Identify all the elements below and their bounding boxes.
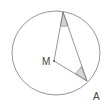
radius-mp bbox=[54, 12, 63, 61]
point-a-label: A bbox=[93, 91, 100, 101]
center-label: M bbox=[42, 56, 50, 67]
geometry-diagram: M A bbox=[0, 0, 102, 101]
chord-pa bbox=[63, 12, 87, 81]
shaded-angle-a bbox=[76, 67, 88, 82]
center-point bbox=[53, 60, 55, 62]
circle bbox=[12, 11, 100, 95]
